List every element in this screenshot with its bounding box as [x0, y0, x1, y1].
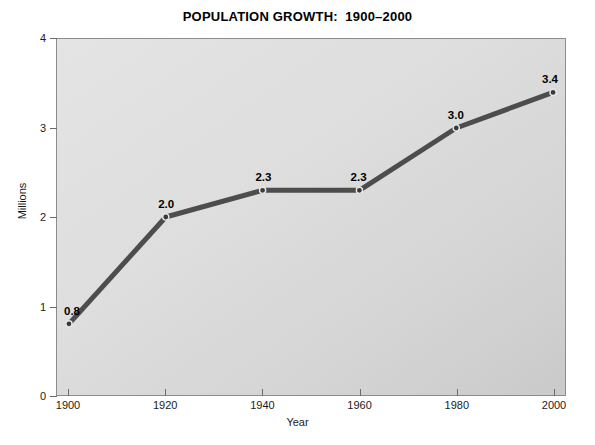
x-tick-label: 2000 [542, 399, 566, 411]
plot-svg [57, 39, 565, 395]
x-tick-mark [554, 389, 555, 396]
y-tick-mark [50, 38, 57, 39]
y-tick-label: 1 [40, 301, 46, 313]
x-tick-label: 1920 [153, 399, 177, 411]
data-point-marker [453, 125, 459, 131]
y-tick-mark [50, 307, 57, 308]
chart-title: POPULATION GROWTH: 1900–2000 [0, 9, 595, 24]
y-tick-label: 3 [40, 122, 46, 134]
data-point-marker [260, 187, 266, 193]
y-tick-mark [50, 217, 57, 218]
data-point-marker [550, 89, 556, 95]
x-tick-mark [457, 389, 458, 396]
x-tick-mark [68, 389, 69, 396]
x-tick-mark [262, 389, 263, 396]
data-markers [66, 89, 556, 327]
data-point-marker [356, 187, 362, 193]
data-point-marker [66, 321, 72, 327]
y-axis-title: Millions [16, 161, 28, 241]
y-tick-mark [50, 128, 57, 129]
data-point-marker [163, 214, 169, 220]
x-tick-label: 1960 [347, 399, 371, 411]
x-axis-title: Year [0, 416, 595, 428]
population-growth-line-chart: POPULATION GROWTH: 1900–2000 19001920194… [0, 0, 595, 445]
x-tick-label: 1900 [56, 399, 80, 411]
x-tick-label: 1940 [250, 399, 274, 411]
y-tick-label: 0 [40, 390, 46, 402]
data-line [69, 92, 553, 323]
y-tick-label: 4 [40, 32, 46, 44]
y-tick-mark [50, 396, 57, 397]
x-tick-mark [360, 389, 361, 396]
plot-area [56, 38, 566, 396]
y-tick-label: 2 [40, 211, 46, 223]
x-tick-label: 1980 [445, 399, 469, 411]
x-tick-mark [165, 389, 166, 396]
